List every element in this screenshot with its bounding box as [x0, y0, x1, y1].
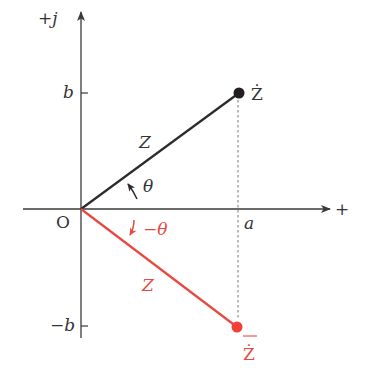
conjugate-z-label: Z [141, 275, 155, 295]
angle-neg-theta-label: −θ [143, 219, 167, 239]
angle-neg-theta-arrow-icon [130, 220, 134, 235]
vector-z [81, 93, 239, 209]
tick-label-b: b [63, 82, 74, 102]
point-z-conjugate-dot [232, 322, 243, 333]
point-z-dot [234, 88, 245, 99]
real-axis-label: + [335, 199, 349, 219]
origin-label: O [56, 212, 70, 232]
angle-theta-label: θ [143, 176, 153, 196]
complex-plane-diagram: +j + O b −b a Z θ Ż Z −θ Ż [0, 0, 367, 379]
vector-z-label: Z [138, 132, 152, 152]
imaginary-axis-label: +j [38, 8, 58, 28]
point-z-conjugate-label: Ż [243, 344, 255, 364]
tick-label-neg-b: −b [50, 315, 75, 335]
point-z-label: Ż [251, 84, 263, 104]
angle-theta-arrow-icon [128, 184, 137, 199]
tick-label-a: a [244, 213, 254, 233]
